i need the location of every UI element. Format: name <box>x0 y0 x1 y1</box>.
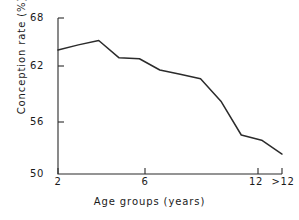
x-tick-label-12: 12 <box>249 176 263 187</box>
plot-area <box>0 0 299 220</box>
data-line-conception-rate <box>58 41 282 155</box>
chart-figure: Conception rate (%) 68 62 56 50 2 6 12 >… <box>0 0 299 220</box>
x-tick-label-2: 2 <box>54 176 61 187</box>
x-axis-title: Age groups (years) <box>0 196 299 207</box>
x-tick-label-gt12: >12 <box>271 176 294 187</box>
x-tick-label-6: 6 <box>141 176 148 187</box>
